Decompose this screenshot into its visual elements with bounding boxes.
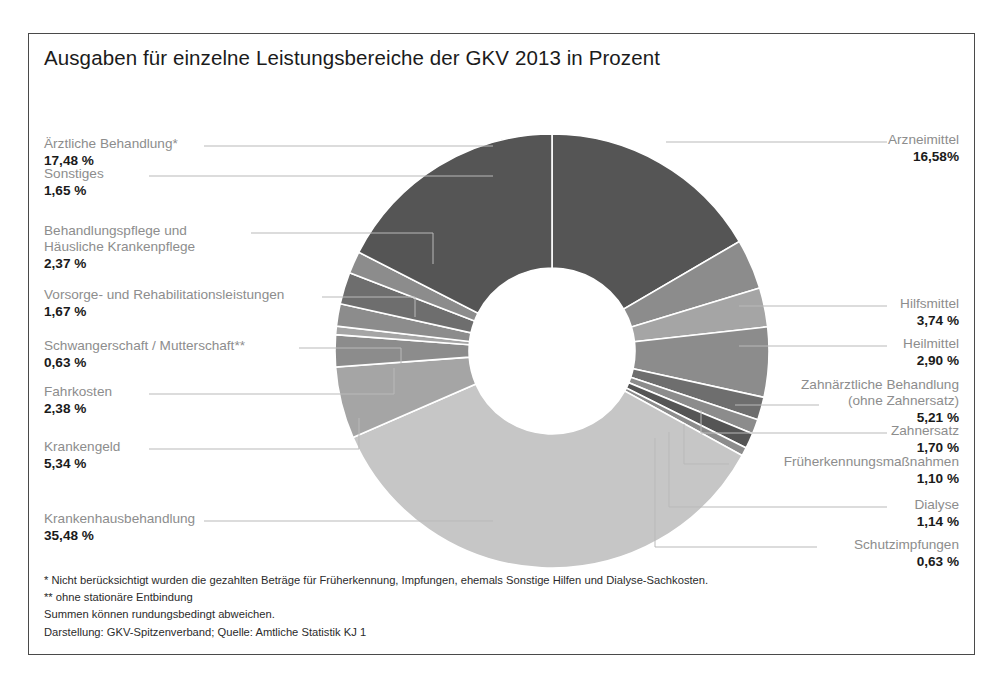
- callout-schwangerschaft-mutterschaft[interactable]: Schwangerschaft / Mutterschaft** 0,63 %: [44, 338, 245, 371]
- callout-vorsorge-rehabilitation[interactable]: Vorsorge- und Rehabilitationsleistungen …: [44, 287, 284, 320]
- callout-label: Zahnärztliche Behandlung: [801, 377, 959, 393]
- callout-frueherkennungsmassnahmen[interactable]: Früherkennungsmaßnahmen 1,10 %: [784, 454, 959, 487]
- callout-value: 0,63 %: [44, 355, 245, 371]
- callout-label: Dialyse: [914, 497, 959, 513]
- callout-arzneimittel[interactable]: Arzneimittel 16,58%: [888, 132, 959, 165]
- callout-label: Sonstiges: [44, 166, 104, 182]
- callout-value: 1,65 %: [44, 183, 104, 199]
- chart-panel: Ausgaben für einzelne Leistungsbereiche …: [28, 33, 975, 655]
- callout-zahnaerztliche-behandlung[interactable]: Zahnärztliche Behandlung (ohne Zahnersat…: [801, 377, 959, 426]
- callout-value: 5,34 %: [44, 456, 120, 472]
- callout-label: Fahrkosten: [44, 384, 112, 400]
- callout-fahrkosten[interactable]: Fahrkosten 2,38 %: [44, 384, 112, 417]
- callout-label: Vorsorge- und Rehabilitationsleistungen: [44, 287, 284, 303]
- callout-value: 35,48 %: [44, 528, 195, 544]
- callout-krankenhausbehandlung[interactable]: Krankenhausbehandlung 35,48 %: [44, 511, 195, 544]
- callout-label-line2: Häusliche Krankenpflege: [44, 239, 195, 255]
- callout-hilfsmittel[interactable]: Hilfsmittel 3,74 %: [900, 296, 959, 329]
- footnote-line-3: Summen können rundungsbedingt abweichen.: [44, 606, 708, 623]
- callout-label: Ärztliche Behandlung*: [44, 136, 178, 152]
- callout-dialyse[interactable]: Dialyse 1,14 %: [914, 497, 959, 530]
- callout-value: 2,37 %: [44, 256, 195, 272]
- callout-schutzimpfungen[interactable]: Schutzimpfungen 0,63 %: [854, 537, 959, 570]
- callout-value: 3,74 %: [900, 313, 959, 329]
- callout-label-line2: (ohne Zahnersatz): [801, 393, 959, 409]
- callout-label: Krankenhausbehandlung: [44, 511, 195, 527]
- callout-label: Krankengeld: [44, 439, 120, 455]
- footnote-source: Darstellung: GKV-Spitzenverband; Quelle:…: [44, 624, 708, 641]
- callout-value: 16,58%: [888, 149, 959, 165]
- callout-label: Schutzimpfungen: [854, 537, 959, 553]
- callout-label: Früherkennungsmaßnahmen: [784, 454, 959, 470]
- callout-value: 0,63 %: [854, 554, 959, 570]
- callout-aerztliche-behandlung[interactable]: Ärztliche Behandlung* 17,48 %: [44, 136, 178, 169]
- callout-label: Schwangerschaft / Mutterschaft**: [44, 338, 245, 354]
- callout-sonstiges[interactable]: Sonstiges 1,65 %: [44, 166, 104, 199]
- footnote-line-2: ** ohne stationäre Entbindung: [44, 589, 708, 606]
- callout-label: Zahnersatz: [891, 423, 959, 439]
- callout-value: 1,10 %: [784, 471, 959, 487]
- callout-label: Behandlungspflege und: [44, 223, 195, 239]
- callout-zahnersatz[interactable]: Zahnersatz 1,70 %: [891, 423, 959, 456]
- callout-behandlungspflege[interactable]: Behandlungspflege und Häusliche Krankenp…: [44, 223, 195, 272]
- callout-krankengeld[interactable]: Krankengeld 5,34 %: [44, 439, 120, 472]
- callout-value: 2,38 %: [44, 401, 112, 417]
- callout-label: Arzneimittel: [888, 132, 959, 148]
- callout-label: Heilmittel: [903, 336, 959, 352]
- callout-value: 2,90 %: [903, 353, 959, 369]
- footnote-line-1: * Nicht berücksichtigt wurden die gezahl…: [44, 572, 708, 589]
- callout-heilmittel[interactable]: Heilmittel 2,90 %: [903, 336, 959, 369]
- callout-value: 1,14 %: [914, 514, 959, 530]
- callout-value: 1,67 %: [44, 304, 284, 320]
- footnotes: * Nicht berücksichtigt wurden die gezahl…: [44, 572, 708, 641]
- callout-label: Hilfsmittel: [900, 296, 959, 312]
